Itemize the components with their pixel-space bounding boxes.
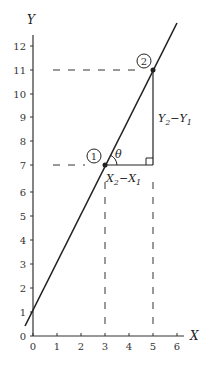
- svg-text:6: 6: [20, 187, 26, 198]
- svg-text:2: 2: [78, 341, 84, 352]
- svg-text:11: 11: [13, 65, 26, 76]
- svg-text:5: 5: [150, 341, 156, 352]
- theta-label: θ: [115, 148, 122, 161]
- svg-text:10: 10: [13, 89, 26, 100]
- point-2-label: 2: [137, 54, 151, 68]
- svg-text:4: 4: [20, 235, 26, 246]
- svg-text:1: 1: [20, 307, 26, 318]
- svg-text:12: 12: [13, 41, 26, 52]
- rise-label: Y2−Y1: [158, 112, 192, 127]
- y-axis-label: Y: [27, 13, 36, 27]
- svg-text:9: 9: [20, 112, 26, 123]
- slope-diagram: 0 1 2 3 4 5 6 0 1 2 3 4 5 6 7 8 9 10 11 …: [0, 0, 210, 367]
- guide-lines: [53, 70, 153, 332]
- point-1: [103, 163, 108, 168]
- svg-text:1: 1: [54, 341, 60, 352]
- svg-text:4: 4: [126, 341, 132, 352]
- svg-text:3: 3: [20, 259, 26, 270]
- run-label: X2−X1: [105, 172, 141, 187]
- point-1-label: 1: [87, 149, 101, 163]
- svg-text:1: 1: [91, 151, 97, 162]
- svg-text:8: 8: [20, 136, 26, 147]
- y-tick-labels: 0 1 2 3 4 5 6 7 8 9 10 11 12: [13, 41, 26, 342]
- right-angle-marker: [146, 158, 153, 165]
- svg-text:5: 5: [20, 211, 26, 222]
- svg-text:6: 6: [174, 341, 180, 352]
- x-axis-label: X: [189, 329, 199, 343]
- svg-text:7: 7: [20, 160, 26, 171]
- svg-text:0: 0: [30, 341, 36, 352]
- svg-text:3: 3: [102, 341, 108, 352]
- svg-text:2: 2: [141, 56, 147, 67]
- svg-text:0: 0: [20, 331, 26, 342]
- x-tick-labels: 0 1 2 3 4 5 6: [30, 341, 180, 352]
- point-2: [151, 68, 156, 73]
- svg-text:2: 2: [20, 283, 26, 294]
